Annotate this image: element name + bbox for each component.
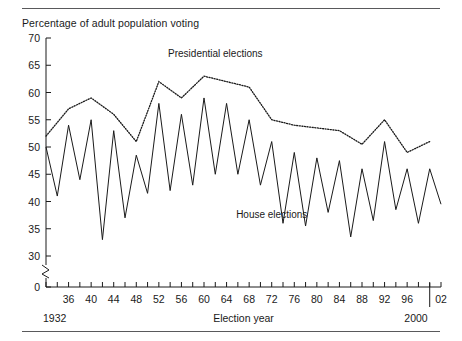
x-axis-start-year-label: 1932 bbox=[43, 312, 67, 324]
y-tick-label: 40 bbox=[28, 196, 40, 208]
x-tick-label: 80 bbox=[311, 293, 323, 305]
series-annotations-group: Presidential electionsHouse elections bbox=[168, 48, 307, 220]
y-tick-label: 30 bbox=[28, 250, 40, 262]
y-tick-label: 50 bbox=[28, 141, 40, 153]
x-tick-label: 56 bbox=[176, 293, 188, 305]
y-tick-label: 60 bbox=[28, 87, 40, 99]
x-tick-label: 64 bbox=[221, 293, 233, 305]
x-tick-label: 36 bbox=[63, 293, 75, 305]
x-tick-label: 92 bbox=[379, 293, 391, 305]
y-tick-label: 35 bbox=[28, 223, 40, 235]
x-axis-end-year-label: 2000 bbox=[404, 312, 428, 324]
series-annotation-label: Presidential elections bbox=[168, 48, 263, 59]
y-tick-label: 55 bbox=[28, 114, 40, 126]
y-tick-label: 65 bbox=[28, 59, 40, 71]
y-axis-ticks-group: 0303540455055606570 bbox=[28, 32, 51, 293]
x-tick-label: 02 bbox=[435, 293, 447, 305]
x-axis-ticks-group: 3640444852566064687276808488929602 bbox=[46, 282, 447, 305]
x-tick-label: 84 bbox=[334, 293, 346, 305]
x-tick-label: 72 bbox=[266, 293, 278, 305]
x-tick-label: 88 bbox=[356, 293, 368, 305]
chart-plot-area: 0303540455055606570 36404448525660646872… bbox=[0, 0, 462, 341]
y-tick-label: 70 bbox=[28, 32, 40, 44]
x-axis-title: Election year bbox=[213, 312, 274, 324]
x-tick-label: 40 bbox=[85, 293, 97, 305]
x-tick-label: 52 bbox=[153, 293, 165, 305]
axis-lines-group bbox=[42, 38, 441, 307]
x-tick-label: 44 bbox=[108, 293, 120, 305]
x-tick-label: 48 bbox=[130, 293, 142, 305]
y-tick-label: 0 bbox=[34, 281, 40, 293]
figure-container: Percentage of adult population voting 03… bbox=[0, 0, 462, 341]
x-tick-label: 60 bbox=[198, 293, 210, 305]
x-tick-label: 96 bbox=[401, 293, 413, 305]
series-annotation-label: House elections bbox=[236, 209, 307, 220]
x-tick-label: 68 bbox=[243, 293, 255, 305]
y-tick-label: 45 bbox=[28, 168, 40, 180]
series-presidential-elections bbox=[46, 76, 430, 152]
y-axis-break-mark bbox=[42, 265, 49, 278]
x-tick-label: 76 bbox=[288, 293, 300, 305]
